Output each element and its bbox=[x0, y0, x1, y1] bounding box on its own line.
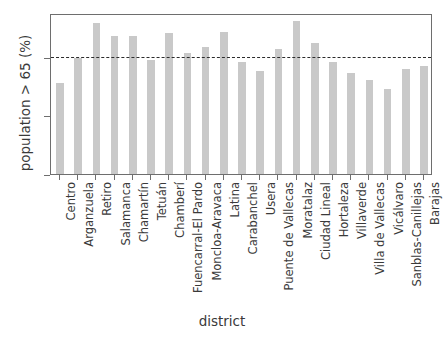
bar bbox=[220, 32, 228, 174]
bar bbox=[402, 69, 410, 174]
bar-chart-figure: population > 65 (%) average in Madrid 01… bbox=[0, 0, 444, 345]
x-axis-tick-mark bbox=[186, 175, 187, 180]
x-axis-tick-label: Villaverde bbox=[355, 182, 369, 239]
plot-area bbox=[50, 14, 432, 175]
bar bbox=[256, 71, 264, 174]
x-axis-tick-label: Centro bbox=[64, 182, 78, 220]
x-axis-tick-label: Chamartín bbox=[137, 182, 151, 242]
y-axis-tick-mark bbox=[44, 58, 50, 59]
x-axis-tick-mark bbox=[368, 175, 369, 180]
x-axis-tick-label: Arganzuela bbox=[82, 182, 96, 247]
x-axis-tick-mark bbox=[59, 175, 60, 180]
bar bbox=[202, 47, 210, 174]
bar bbox=[56, 83, 64, 174]
x-axis-tick-mark bbox=[296, 175, 297, 180]
x-axis-tick-mark bbox=[387, 175, 388, 180]
x-axis-tick-label: Sanblas-Canillejas bbox=[410, 182, 424, 287]
x-axis-tick-mark bbox=[223, 175, 224, 180]
x-axis-tick-mark bbox=[168, 175, 169, 180]
x-axis-tick-mark bbox=[114, 175, 115, 180]
y-axis-label: population > 65 (%) bbox=[17, 8, 33, 198]
bar bbox=[93, 23, 101, 174]
x-axis-tick-mark bbox=[423, 175, 424, 180]
x-axis-tick-mark bbox=[241, 175, 242, 180]
x-axis-tick-mark bbox=[259, 175, 260, 180]
x-axis-tick-label: Vicálvaro bbox=[392, 182, 406, 235]
x-axis-tick-label: Hortaleza bbox=[337, 182, 351, 237]
y-axis-tick-mark bbox=[44, 175, 50, 176]
bar bbox=[238, 62, 246, 174]
x-axis-tick-label: Chamberí bbox=[173, 182, 187, 238]
x-axis-tick-label: Moncloa-Aravaca bbox=[210, 182, 224, 281]
x-axis-tick-label: Barajas bbox=[428, 182, 442, 225]
bar bbox=[366, 80, 374, 174]
x-axis-tick-label: Ciudad Lineal bbox=[319, 182, 333, 260]
bar bbox=[147, 60, 155, 174]
bar bbox=[74, 58, 82, 174]
bar bbox=[311, 43, 319, 174]
x-axis-tick-mark bbox=[77, 175, 78, 180]
bar bbox=[275, 49, 283, 174]
x-axis-tick-label: Carabanchel bbox=[246, 182, 260, 254]
x-axis-tick-mark bbox=[350, 175, 351, 180]
x-axis-tick-mark bbox=[405, 175, 406, 180]
bars-container bbox=[51, 15, 431, 174]
x-axis-tick-mark bbox=[205, 175, 206, 180]
x-axis-tick-label: Usera bbox=[264, 182, 278, 215]
y-axis-tick-mark bbox=[44, 116, 50, 117]
x-axis-tick-mark bbox=[132, 175, 133, 180]
bar bbox=[384, 89, 392, 174]
x-axis-tick-mark bbox=[277, 175, 278, 180]
bar bbox=[165, 33, 173, 174]
x-axis-tick-label: Latina bbox=[228, 182, 242, 218]
x-axis-tick-mark bbox=[332, 175, 333, 180]
x-axis-label: district bbox=[0, 313, 444, 329]
x-axis-tick-label: Villa de Vallecas bbox=[373, 182, 387, 275]
x-axis-tick-label: Tetuán bbox=[155, 182, 169, 220]
x-axis-tick-label: Salamanca bbox=[119, 182, 133, 246]
x-axis-tick-label: Puente de Vallecas bbox=[282, 182, 296, 291]
x-axis-tick-mark bbox=[95, 175, 96, 180]
bar bbox=[329, 62, 337, 174]
x-axis-tick-label: Fuencarral-El Pardo bbox=[191, 182, 205, 293]
bar bbox=[293, 21, 301, 174]
x-axis-tick-mark bbox=[150, 175, 151, 180]
x-axis-tick-mark bbox=[314, 175, 315, 180]
bar bbox=[347, 73, 355, 174]
x-axis-tick-label: Moratalaz bbox=[301, 182, 315, 239]
average-line bbox=[51, 57, 431, 58]
x-axis-tick-label: Retiro bbox=[100, 182, 114, 216]
bar bbox=[184, 53, 192, 174]
bar bbox=[420, 66, 428, 174]
